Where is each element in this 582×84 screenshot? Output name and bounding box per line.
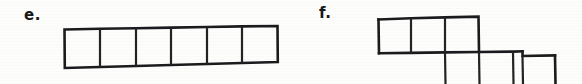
figure-f-bottom-right-edge [555, 55, 556, 84]
figure-f-middle-rail [379, 51, 523, 53]
figure-f-bottom-divider-1 [445, 52, 446, 84]
figure-f-bottom-divider-3 [513, 52, 514, 84]
figure-f-block: f. [291, 0, 582, 84]
figure-f-left-edge [379, 20, 380, 54]
worksheet-figure-page: e. f. [0, 0, 582, 84]
figure-f-top-outline [379, 17, 480, 52]
figure-e-drawing [0, 0, 291, 84]
figure-f-bottom-divider-2 [479, 52, 480, 84]
figure-f-drawing [291, 0, 582, 84]
figure-f-bottom-divider-4 [523, 56, 524, 84]
figure-f-step-edge [523, 51, 556, 56]
figure-e-block: e. [0, 0, 291, 84]
